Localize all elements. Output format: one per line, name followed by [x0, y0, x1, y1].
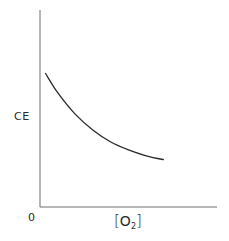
- x-axis-label-subscript: 2: [131, 222, 136, 231]
- data-curve: [45, 73, 164, 160]
- x-axis-label: [O2]: [114, 214, 142, 229]
- origin-label: 0: [28, 212, 35, 223]
- chart-plot-area: [0, 0, 229, 241]
- x-axis-label-main: O: [120, 213, 131, 229]
- y-axis-label: CE: [14, 111, 30, 122]
- x-axis-label-close-bracket: ]: [136, 212, 142, 230]
